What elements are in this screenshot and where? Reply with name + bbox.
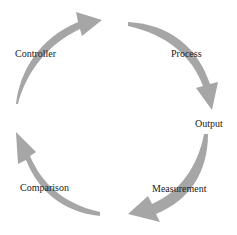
stage-label-comparison: Comparison [20,183,69,193]
arrow-controller-to-process-icon [128,22,218,110]
stage-label-measurement: Measurement [152,184,206,194]
feedback-cycle-diagram: Controller Process Output Measurement Co… [0,0,237,235]
stage-label-controller: Controller [15,49,56,59]
arrow-output-to-measurement-icon [128,134,208,222]
stage-label-process: Process [171,49,202,59]
arrow-measurement-to-comparison-icon [16,132,100,216]
stage-label-output: Output [195,119,223,129]
